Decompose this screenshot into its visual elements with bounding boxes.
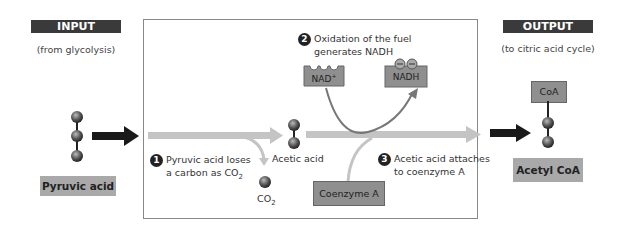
coenzyme-a-box: Coenzyme A — [313, 181, 385, 206]
main-arrow-2-icon — [306, 126, 481, 143]
step-1-text: 1Pyruvic acid loses a carbon as CO2 — [150, 154, 251, 183]
nad-label: NAD+ — [304, 72, 344, 84]
step-3-badge: 3 — [378, 153, 391, 166]
step-1-badge: 1 — [150, 154, 163, 167]
step-2-badge: 2 — [298, 33, 311, 46]
acetyl-coa-molecule-icon — [542, 101, 554, 148]
step-3-text: 3Acetic acid attaches to coenzyme A — [378, 153, 490, 178]
nadh-label: NADH — [385, 72, 427, 82]
input-arrow-icon — [92, 126, 139, 146]
output-arrow-icon — [490, 124, 531, 142]
acetic-acid-molecule-icon — [288, 119, 300, 149]
pyruvic-acid-molecule-icon — [71, 111, 83, 162]
step-2-text: 2Oxidation of the fuel generates NADH — [298, 33, 411, 58]
main-arrow-1-icon — [148, 127, 283, 144]
acetic-acid-label: Acetic acid — [272, 153, 324, 165]
co2-molecule-icon — [259, 176, 271, 188]
co2-label: CO2 — [257, 193, 276, 209]
